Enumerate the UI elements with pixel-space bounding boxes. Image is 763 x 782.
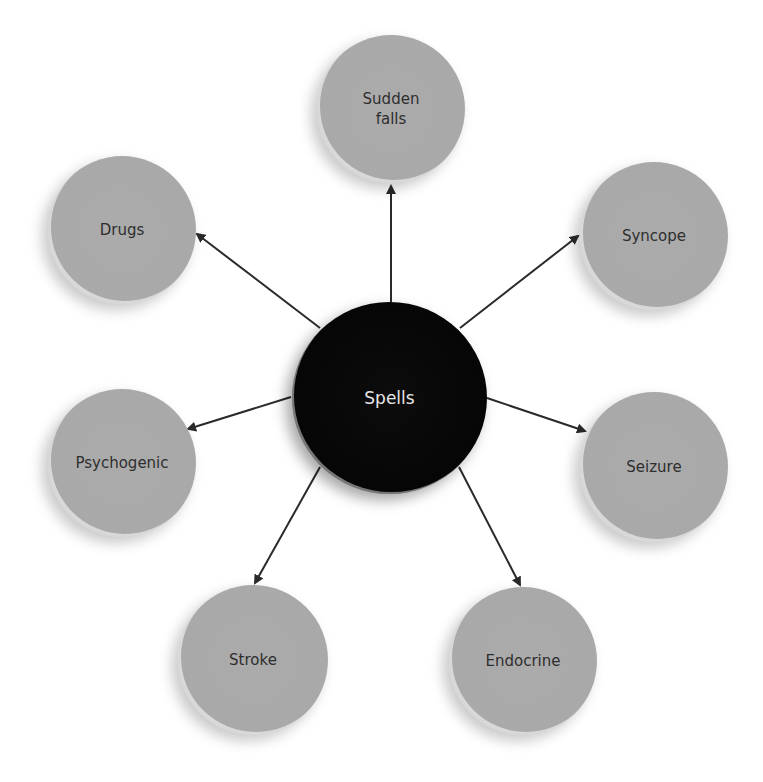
node-seizure: Seizure xyxy=(580,392,728,542)
node-label: Drugs xyxy=(100,220,145,240)
node-endocrine: Endocrine xyxy=(449,587,597,735)
node-sudden-falls: Sudden falls xyxy=(317,35,465,183)
arrow-drugs xyxy=(197,234,320,328)
node-label: Psychogenic xyxy=(75,453,168,473)
center-label: Spells xyxy=(364,388,414,408)
node-drugs: Drugs xyxy=(48,156,196,304)
node-psychogenic: Psychogenic xyxy=(48,389,196,537)
arrow-psychogenic xyxy=(188,397,291,429)
node-label: Sudden falls xyxy=(363,89,420,129)
spells-diagram: Sudden falls Syncope Seizure Endocrine S… xyxy=(0,0,763,782)
node-stroke: Stroke xyxy=(178,585,328,735)
node-label: Syncope xyxy=(622,226,686,246)
arrow-seizure xyxy=(487,398,585,431)
node-syncope: Syncope xyxy=(580,162,728,310)
arrow-syncope xyxy=(460,236,578,328)
node-label: Endocrine xyxy=(486,651,561,671)
node-label: Seizure xyxy=(626,457,681,477)
arrow-stroke xyxy=(255,467,320,583)
node-spells-center: Spells xyxy=(292,302,487,494)
node-label: Stroke xyxy=(229,650,277,670)
arrow-endocrine xyxy=(459,467,520,585)
